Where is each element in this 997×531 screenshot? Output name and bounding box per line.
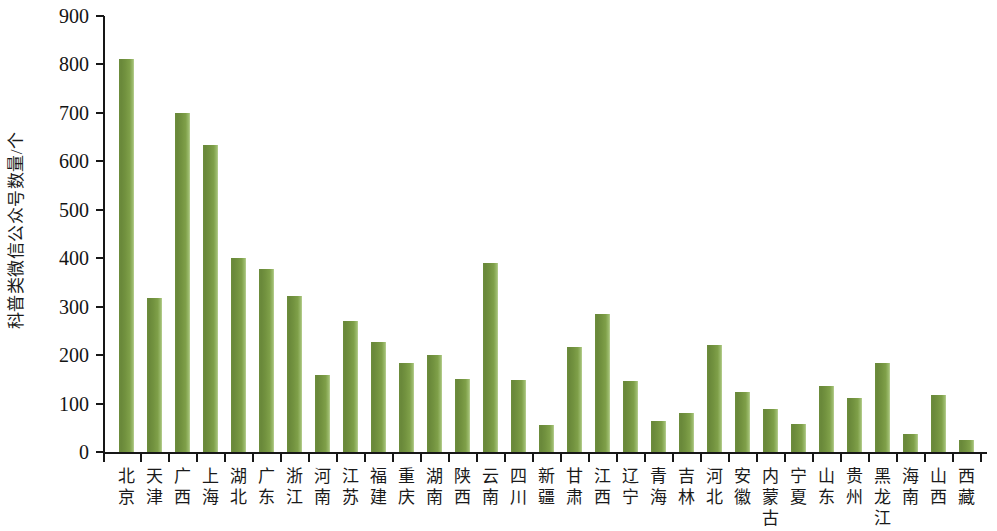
y-tick-label: 0	[79, 442, 89, 462]
x-tick-label: 山东	[816, 466, 838, 508]
y-tick-mark	[96, 451, 104, 453]
bar	[679, 413, 694, 452]
x-tick-label: 浙江	[283, 466, 305, 508]
bar	[455, 379, 470, 452]
x-tick-label: 云南	[480, 466, 502, 508]
bar	[903, 434, 918, 452]
bar	[371, 342, 386, 452]
x-tick-mark	[364, 454, 366, 462]
x-tick-mark	[560, 454, 562, 462]
x-tick-label: 辽宁	[620, 466, 642, 508]
x-tick-label: 上海	[199, 466, 221, 508]
x-tick-mark	[700, 454, 702, 462]
bar	[763, 409, 778, 452]
y-tick-label: 400	[59, 248, 89, 268]
y-tick-mark	[96, 15, 104, 17]
y-tick-label: 500	[59, 200, 89, 220]
x-tick-label: 安徽	[732, 466, 754, 508]
x-axis-line	[103, 452, 987, 454]
y-tick-mark	[96, 306, 104, 308]
x-tick-mark	[756, 454, 758, 462]
bar	[651, 421, 666, 452]
y-tick-mark	[96, 354, 104, 356]
x-tick-label: 广东	[255, 466, 277, 508]
x-tick-label: 重庆	[395, 466, 417, 508]
x-tick-label: 内蒙古	[760, 466, 782, 529]
x-tick-mark	[980, 454, 982, 462]
x-tick-mark	[420, 454, 422, 462]
y-axis-title-text: 科普类微信公众号数量/个	[3, 131, 28, 329]
y-tick-label: 900	[59, 6, 89, 26]
y-tick-label: 700	[59, 103, 89, 123]
x-tick-label: 湖南	[423, 466, 445, 508]
bar	[287, 296, 302, 452]
x-tick-label: 广西	[171, 466, 193, 508]
x-tick-label: 贵州	[844, 466, 866, 508]
plot-area	[103, 16, 987, 452]
x-tick-label: 山西	[928, 466, 950, 508]
y-tick-label: 200	[59, 345, 89, 365]
x-axis-tick-labels: 北京天津广西上海湖北广东浙江河南江苏福建重庆湖南陕西云南四川新疆甘肃江西辽宁青海…	[103, 466, 987, 531]
x-tick-label: 甘肃	[564, 466, 586, 508]
bar	[119, 59, 134, 452]
bar	[595, 314, 610, 452]
bar	[567, 347, 582, 452]
x-tick-mark	[924, 454, 926, 462]
x-tick-mark	[616, 454, 618, 462]
y-tick-mark	[96, 403, 104, 405]
x-tick-label: 江苏	[339, 466, 361, 508]
x-tick-mark	[868, 454, 870, 462]
x-tick-label: 湖北	[227, 466, 249, 508]
x-tick-mark	[448, 454, 450, 462]
x-tick-label: 青海	[648, 466, 670, 508]
x-tick-mark	[588, 454, 590, 462]
y-axis-tick-labels: 9008007006005004003002001000	[30, 0, 96, 470]
bar	[259, 269, 274, 452]
x-tick-label: 河南	[311, 466, 333, 508]
x-tick-mark	[952, 454, 954, 462]
bar	[203, 145, 218, 452]
y-tick-mark	[96, 257, 104, 259]
bar	[959, 440, 974, 452]
bar	[875, 363, 890, 452]
bar	[847, 398, 862, 452]
bar	[819, 386, 834, 452]
x-tick-mark	[532, 454, 534, 462]
x-tick-mark	[728, 454, 730, 462]
x-tick-label: 新疆	[536, 466, 558, 508]
y-tick-label: 800	[59, 54, 89, 74]
x-tick-mark	[168, 454, 170, 462]
bar-chart: 科普类微信公众号数量/个 900800700600500400300200100…	[0, 0, 997, 531]
bar	[427, 355, 442, 452]
x-tick-label: 吉林	[676, 466, 698, 508]
bar	[175, 113, 190, 452]
x-tick-label: 北京	[115, 466, 137, 508]
x-tick-mark	[280, 454, 282, 462]
y-axis-line	[103, 16, 105, 452]
x-tick-mark	[896, 454, 898, 462]
x-tick-mark	[812, 454, 814, 462]
y-tick-mark	[96, 160, 104, 162]
x-tick-mark	[336, 454, 338, 462]
x-tick-mark-origin	[103, 454, 105, 462]
x-tick-mark	[196, 454, 198, 462]
y-tick-mark	[96, 112, 104, 114]
bar	[343, 321, 358, 452]
bar	[147, 298, 162, 452]
x-tick-mark	[784, 454, 786, 462]
bar	[735, 392, 750, 452]
x-tick-mark	[476, 454, 478, 462]
x-tick-mark	[672, 454, 674, 462]
x-tick-mark	[224, 454, 226, 462]
bar	[231, 258, 246, 452]
x-tick-mark	[308, 454, 310, 462]
bar	[791, 424, 806, 452]
bar	[707, 345, 722, 452]
bar	[931, 395, 946, 452]
x-tick-mark	[140, 454, 142, 462]
bar	[511, 380, 526, 452]
x-tick-label: 海南	[900, 466, 922, 508]
x-tick-label: 四川	[508, 466, 530, 508]
x-tick-mark	[252, 454, 254, 462]
y-tick-mark	[96, 209, 104, 211]
